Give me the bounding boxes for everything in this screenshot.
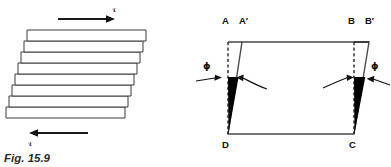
plate-2 bbox=[24, 41, 143, 52]
left-angle-wedge bbox=[228, 77, 239, 133]
vertex-label-a: A bbox=[222, 15, 229, 26]
bottom-tau-label: τ bbox=[28, 140, 33, 148]
plate-7 bbox=[9, 96, 128, 107]
plate-1 bbox=[27, 30, 146, 41]
vertex-label-a-prime: A′ bbox=[239, 15, 249, 26]
right-wedge-curved-arrow bbox=[323, 74, 354, 88]
plate-stack bbox=[6, 30, 146, 118]
bottom-shear-arrow bbox=[29, 129, 88, 137]
figure-caption: Fig. 15.9 bbox=[4, 152, 51, 164]
figure-container: τ τ Fig. 15.9 bbox=[0, 0, 391, 167]
top-shear-arrow bbox=[58, 15, 115, 23]
plate-3 bbox=[21, 52, 140, 63]
parallelogram-outline bbox=[228, 42, 369, 134]
left-phi-label: ϕ bbox=[203, 60, 211, 71]
vertex-label-d: D bbox=[222, 139, 229, 150]
right-phi-label: ϕ bbox=[371, 60, 379, 71]
right-angle-wedge bbox=[354, 77, 365, 133]
plate-8 bbox=[6, 107, 125, 118]
left-phi-pointer bbox=[196, 75, 222, 81]
plate-4 bbox=[18, 63, 137, 74]
plate-6 bbox=[12, 85, 131, 96]
left-diagram-group: τ τ Fig. 15.9 bbox=[4, 6, 146, 164]
vertex-label-b-prime: B′ bbox=[365, 15, 375, 26]
vertex-label-c: C bbox=[349, 139, 356, 150]
left-wedge-curved-arrow bbox=[236, 75, 267, 89]
right-phi-pointer bbox=[367, 76, 390, 85]
right-diagram-group: ϕ ϕ A A′ B B′ D C bbox=[196, 15, 390, 150]
top-tau-label: τ bbox=[112, 6, 117, 14]
plate-5 bbox=[15, 74, 134, 85]
vertex-label-b: B bbox=[348, 15, 355, 26]
figure-svg: τ τ Fig. 15.9 bbox=[0, 0, 391, 167]
